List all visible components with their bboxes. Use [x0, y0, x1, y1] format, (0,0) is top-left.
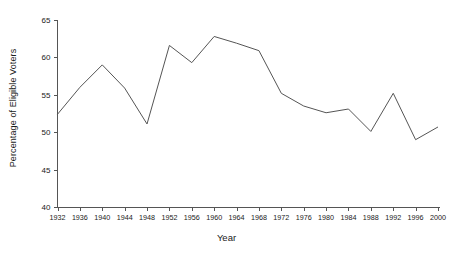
- series-line-voter-turnout: [58, 36, 439, 139]
- y-tick-label: 40: [42, 203, 51, 212]
- x-tick-label: 1964: [229, 213, 245, 222]
- x-tick-label: 1988: [363, 213, 379, 222]
- x-axis-title: Year: [0, 232, 453, 243]
- voter-turnout-line-chart: Percentage of Eligible Voters 6560555045…: [0, 0, 453, 258]
- x-tick-label: 1968: [251, 213, 267, 222]
- y-axis-ticks: 656055504540: [42, 16, 58, 212]
- x-tick-label: 1936: [72, 213, 88, 222]
- x-axis-title-text: Year: [217, 232, 236, 243]
- x-tick-label: 1960: [206, 213, 222, 222]
- y-tick-label: 45: [42, 166, 51, 175]
- x-tick-label: 1944: [117, 213, 133, 222]
- x-tick-label: 1976: [296, 213, 312, 222]
- x-tick-label: 2000: [430, 213, 446, 222]
- x-tick-label: 1996: [408, 213, 424, 222]
- y-tick-label: 65: [42, 16, 51, 25]
- y-tick-label: 50: [42, 128, 51, 137]
- x-tick-label: 1948: [139, 213, 155, 222]
- plot-area: 656055504540 193219361940194419481952195…: [0, 0, 453, 258]
- x-tick-label: 1972: [273, 213, 289, 222]
- x-tick-label: 1984: [340, 213, 356, 222]
- x-tick-label: 1980: [318, 213, 334, 222]
- x-tick-label: 1932: [50, 213, 66, 222]
- x-tick-label: 1992: [385, 213, 401, 222]
- y-tick-label: 55: [42, 91, 51, 100]
- x-tick-label: 1952: [161, 213, 177, 222]
- y-tick-label: 60: [42, 53, 51, 62]
- x-axis-ticks: 1932193619401944194819521956196019641968…: [50, 207, 447, 222]
- x-tick-label: 1940: [94, 213, 110, 222]
- x-tick-label: 1956: [184, 213, 200, 222]
